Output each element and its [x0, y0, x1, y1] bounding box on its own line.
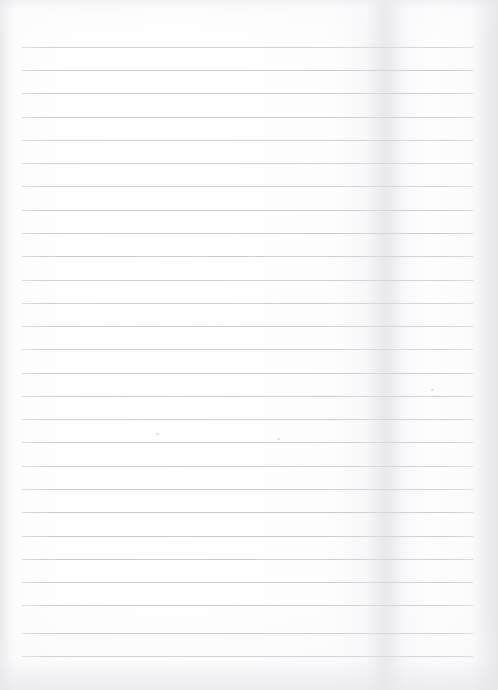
scanned-page [0, 0, 498, 690]
paper-background [0, 0, 498, 690]
